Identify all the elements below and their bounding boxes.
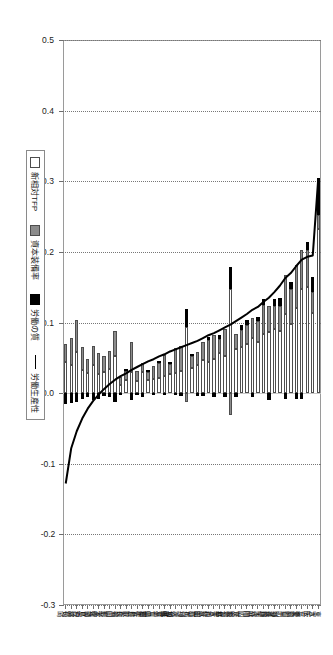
labor-productivity-line (66, 178, 319, 483)
axis-tick-label: -0.1 (34, 459, 62, 469)
legend-swatch-icon (35, 355, 36, 369)
legend-label: 労働の質 (30, 309, 41, 341)
legend-item[interactable]: 新相対TFP (30, 157, 41, 211)
legend-swatch-icon (31, 225, 41, 236)
legend-label: 新相対TFP (30, 172, 41, 211)
chart-stage: 0.50.40.30.20.10.0-0.1-0.2-0.3 東京大阪千葉三重愛… (0, 0, 333, 655)
legend-item[interactable]: 労働の質 (30, 294, 41, 341)
axis-tick-label: 0.5 (34, 35, 62, 45)
gridline (63, 605, 321, 606)
axis-tick-label: 0.4 (34, 106, 62, 116)
productivity-line (63, 40, 321, 605)
legend-swatch-icon (31, 294, 41, 305)
chart-legend: 新相対TFP資本装備率労働の質労働生産性 (26, 150, 45, 420)
legend-item[interactable]: 資本装備率 (30, 225, 41, 280)
legend-item[interactable]: 労働生産性 (30, 355, 41, 413)
plot-area (63, 40, 321, 605)
legend-swatch-icon (31, 157, 41, 168)
legend-label: 資本装備率 (30, 240, 41, 280)
legend-label: 労働生産性 (30, 373, 41, 413)
axis-tick-label: -0.2 (34, 529, 62, 539)
axis-tick-label: -0.3 (34, 600, 62, 610)
category-label: 長崎 (58, 610, 69, 616)
